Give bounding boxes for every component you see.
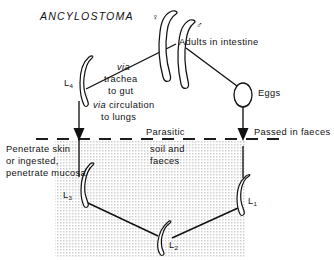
- label-stage-l2-subscript: 2: [174, 244, 177, 251]
- adult-worms-group: [159, 11, 195, 89]
- label-penetrate-line2: or ingested,: [6, 156, 59, 168]
- label-eggs: Eggs: [258, 88, 281, 100]
- label-via-circulation: via circulation: [93, 100, 155, 112]
- label-stage-l4-subscript: 4: [69, 82, 72, 89]
- label-to-gut: to gut: [108, 86, 133, 98]
- label-to-lungs: to lungs: [101, 112, 136, 124]
- worm-female-icon: [159, 11, 177, 82]
- label-stage-l4: L4: [64, 78, 73, 88]
- label-via-circulation-italic: via: [93, 100, 106, 110]
- label-stage-l1-subscript: 1: [253, 200, 256, 207]
- label-stage-l3: L3: [63, 190, 72, 200]
- label-penetrate-line3: penetrate mucosa: [6, 168, 86, 180]
- label-stage-l3-subscript: 3: [68, 194, 71, 201]
- label-passed-in-faeces: Passed in faeces: [254, 127, 330, 139]
- label-circulation-word: circulation: [109, 100, 155, 110]
- adults-to-eggs-line: [186, 48, 237, 86]
- male-symbol-icon: ♂: [196, 21, 203, 30]
- label-soil-and-faeces-line1: soil and: [150, 144, 185, 156]
- label-soil-and-faeces-line2: faeces: [150, 156, 180, 168]
- label-trachea: trachea: [104, 74, 137, 86]
- label-penetrate-line1: Penetrate skin: [6, 144, 70, 156]
- label-stage-l1: L1: [248, 196, 257, 206]
- egg-oval-icon: [234, 83, 252, 107]
- page-title: ANCYLOSTOMA: [40, 10, 134, 22]
- ancylostoma-life-cycle-diagram: ANCYLOSTOMA ♀ ♂ Adults in intestine Eggs…: [0, 0, 334, 260]
- larva-l4-icon: [80, 56, 93, 107]
- label-adults-in-intestine: Adults in intestine: [179, 37, 259, 49]
- label-parasitic: Parasitic: [146, 127, 185, 139]
- label-via-trachea: via: [117, 62, 130, 74]
- female-symbol-icon: ♀: [152, 13, 159, 22]
- worm-male-icon: [178, 20, 195, 89]
- label-stage-l2: L2: [169, 240, 178, 250]
